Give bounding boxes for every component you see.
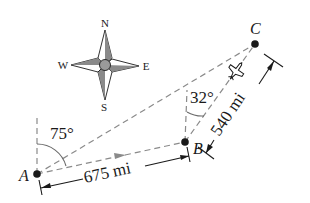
angle-label-a: 75°: [50, 124, 74, 143]
point-c: [251, 40, 259, 48]
compass-south-label: S: [101, 101, 107, 113]
airplane-icon: [224, 58, 249, 84]
dimension-arrow-bottom-icon: [206, 144, 213, 153]
compass-west-label: W: [58, 59, 69, 71]
point-label-b: B: [193, 140, 203, 157]
angle-label-b: 32°: [190, 88, 214, 107]
dimension-arrow-left-icon: [41, 183, 51, 188]
compass-north-label: N: [101, 17, 109, 29]
point-label-a: A: [18, 167, 29, 184]
direction-arrow-icon: [114, 153, 126, 159]
point-a: [33, 170, 41, 178]
dimension-tick-c: [264, 54, 283, 67]
point-label-c: C: [250, 20, 261, 37]
compass-east-label: E: [143, 60, 150, 72]
point-b: [181, 138, 189, 146]
bearing-diagram: N S W E 75° 32° A B C 675 mi 540 mi: [0, 0, 310, 203]
angle-arc-b: [187, 112, 204, 116]
angle-arc-a: [37, 144, 66, 166]
north-reference-line-b: [185, 90, 187, 142]
dimension-tick-b: [187, 147, 190, 162]
compass-rose-icon: [71, 30, 139, 100]
